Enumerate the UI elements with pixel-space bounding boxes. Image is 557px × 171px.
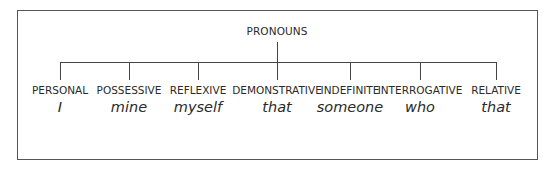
branch-line xyxy=(420,62,421,80)
branch-line xyxy=(129,62,130,80)
branch-line xyxy=(198,62,199,80)
root-stem-line xyxy=(277,42,278,80)
root-node-label: PRONOUNS xyxy=(227,25,327,37)
branch-line xyxy=(60,62,61,80)
branch-line xyxy=(496,62,497,80)
branch-line xyxy=(350,62,351,80)
horizontal-connector-line xyxy=(60,62,497,63)
category-label: RELATIVE xyxy=(441,83,551,97)
example-word: that xyxy=(441,98,551,116)
pronoun-type-node: RELATIVEthat xyxy=(441,83,551,116)
